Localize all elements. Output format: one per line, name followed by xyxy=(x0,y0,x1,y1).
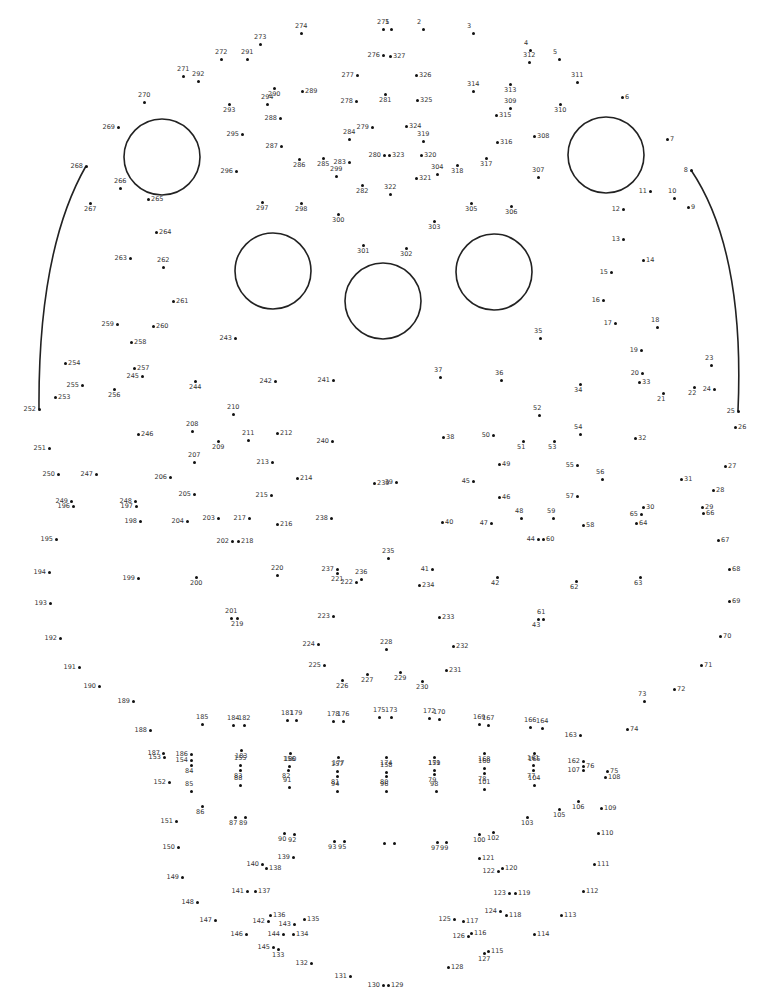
dot-label: 18 xyxy=(651,317,659,324)
dot-icon xyxy=(492,434,495,437)
dot-label: 8 xyxy=(684,167,688,174)
dot-label: 68 xyxy=(732,566,740,573)
dot-icon xyxy=(728,600,731,603)
dot-icon xyxy=(478,723,481,726)
dot-icon xyxy=(177,846,180,849)
left-arc xyxy=(39,166,86,409)
dot-label: 241 xyxy=(318,377,330,384)
dot-label: 23 xyxy=(705,355,713,362)
dot-icon xyxy=(487,950,490,953)
dot-icon xyxy=(389,55,392,58)
dot-label: 117 xyxy=(466,918,478,925)
dot-icon xyxy=(220,58,223,61)
dot-label: 285 xyxy=(317,161,329,168)
dot-icon xyxy=(293,923,296,926)
dot-label: 184 xyxy=(227,715,239,722)
dot-label: 296 xyxy=(221,168,233,175)
dot-icon xyxy=(687,206,690,209)
dot-label: 89 xyxy=(239,820,247,827)
dot-label: 224 xyxy=(303,641,315,648)
dot-label: 312 xyxy=(523,52,535,59)
dot-label: 37 xyxy=(434,367,442,374)
dot-icon xyxy=(137,577,140,580)
dot-label: 244 xyxy=(189,384,201,391)
dot-icon xyxy=(303,918,306,921)
dot-icon xyxy=(288,786,291,789)
dot-icon xyxy=(582,769,585,772)
dot-icon xyxy=(276,432,279,435)
dot-icon xyxy=(496,141,499,144)
dot-label: 122 xyxy=(483,868,495,875)
dot-label: 177 xyxy=(332,760,344,767)
dot-label: 98 xyxy=(430,781,438,788)
dot-icon xyxy=(348,138,351,141)
center-hole-circle xyxy=(345,263,421,339)
dot-label: 3 xyxy=(467,23,471,30)
dot-label: 99 xyxy=(440,845,448,852)
dot-icon xyxy=(265,867,268,870)
dot-icon xyxy=(48,571,51,574)
dot-label: 208 xyxy=(186,421,198,428)
dot-label: 265 xyxy=(151,196,163,203)
dot-icon xyxy=(640,513,643,516)
dot-label: 313 xyxy=(504,87,516,94)
dot-label: 30 xyxy=(646,504,654,511)
dot-label: 307 xyxy=(532,167,544,174)
dot-label: 148 xyxy=(182,899,194,906)
dot-label: 257 xyxy=(137,365,149,372)
dot-label: 220 xyxy=(271,565,283,572)
dot-label: 140 xyxy=(247,861,259,868)
dot-icon xyxy=(420,154,423,157)
dot-label: 100 xyxy=(473,837,485,844)
dot-label: 180 xyxy=(284,756,296,763)
dot-icon xyxy=(621,96,624,99)
dot-icon xyxy=(498,463,501,466)
dot-icon xyxy=(64,362,67,365)
dot-label: 7 xyxy=(670,136,674,143)
dot-label: 50 xyxy=(482,432,490,439)
dot-label: 201 xyxy=(225,608,237,615)
dot-label: 135 xyxy=(307,916,319,923)
dot-label: 262 xyxy=(157,257,169,264)
dot-icon xyxy=(259,43,262,46)
dot-label: 103 xyxy=(521,820,533,827)
dot-icon xyxy=(332,379,335,382)
dot-label: 219 xyxy=(231,621,243,628)
dot-icon xyxy=(239,764,242,767)
dot-label: 191 xyxy=(64,664,76,671)
dot-icon xyxy=(542,618,545,621)
dot-icon xyxy=(470,932,473,935)
dot-icon xyxy=(483,788,486,791)
dot-icon xyxy=(505,914,508,917)
dot-label: 294 xyxy=(261,94,273,101)
dot-icon xyxy=(537,538,540,541)
dot-icon xyxy=(389,193,392,196)
dot-icon xyxy=(501,867,504,870)
dot-icon xyxy=(533,135,536,138)
dot-label: 134 xyxy=(296,931,308,938)
dot-label: 174 xyxy=(380,760,392,767)
dot-label: 31 xyxy=(684,476,692,483)
dot-label: 123 xyxy=(494,890,506,897)
dot-label: 132 xyxy=(296,960,308,967)
dot-icon xyxy=(447,966,450,969)
dot-label: 314 xyxy=(467,81,479,88)
dot-label: 107 xyxy=(568,767,580,774)
dot-label: 264 xyxy=(159,229,171,236)
dot-icon xyxy=(673,688,676,691)
dot-icon xyxy=(642,506,645,509)
dot-icon xyxy=(700,664,703,667)
dot-label: 146 xyxy=(231,931,243,938)
dot-icon xyxy=(467,935,470,938)
left-hole-circle xyxy=(235,233,311,309)
dot-label: 271 xyxy=(177,66,189,73)
dot-icon xyxy=(38,408,41,411)
dot-icon xyxy=(193,493,196,496)
dot-icon xyxy=(378,716,381,719)
dot-icon xyxy=(373,482,376,485)
dot-label: 310 xyxy=(554,107,566,114)
dot-label: 76 xyxy=(586,763,594,770)
dot-icon xyxy=(261,863,264,866)
dot-label: 20 xyxy=(631,370,639,377)
dot-icon xyxy=(552,517,555,520)
